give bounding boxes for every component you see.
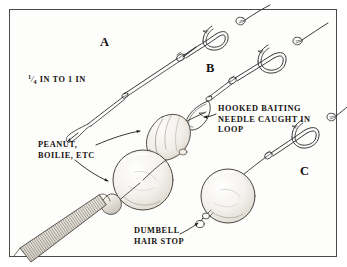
label-letter-b: B — [206, 60, 215, 76]
label-dumbell-hair-stop: DUMBELL HAIR STOP — [134, 226, 184, 247]
label-hooked-baiting-needle: HOOKED BAITING NEEDLE CAUGHT IN LOOP — [218, 104, 311, 136]
hook-b — [227, 23, 328, 85]
arrow-needle — [204, 114, 216, 117]
label-stop-line-1: DUMBELL — [134, 226, 184, 237]
label-needle-line-3: LOOP — [218, 125, 311, 136]
label-bait-line-2: BOILIE, ETC — [38, 151, 95, 162]
label-letter-c: C — [300, 163, 310, 179]
label-needle-line-2: NEEDLE CAUGHT IN — [218, 115, 311, 126]
label-hair-length: 1⁄4 IN TO 1 IN — [28, 73, 86, 87]
label-hair-length-text: IN TO 1 IN — [40, 75, 86, 84]
label-letter-a: A — [100, 34, 110, 50]
figure-canvas: A B C 1⁄4 IN TO 1 IN HOOKED BAITING NEED… — [0, 0, 347, 267]
hook-a — [175, 5, 270, 63]
label-bait-line-1: PEANUT, — [38, 140, 95, 151]
needle-handle — [14, 194, 121, 262]
fraction-one-quarter: 1⁄4 — [28, 76, 37, 84]
fraction-denominator: 4 — [33, 79, 37, 86]
label-stop-line-2: HAIR STOP — [134, 237, 184, 248]
arrow-bait-lower — [75, 160, 108, 181]
fraction-numerator: 1 — [28, 73, 32, 80]
arrow-bait-upper — [96, 131, 140, 145]
label-needle-line-1: HOOKED BAITING — [218, 104, 311, 115]
label-peanut-boilie: PEANUT, BOILIE, ETC — [38, 140, 95, 161]
diagram-group-b — [130, 23, 328, 162]
